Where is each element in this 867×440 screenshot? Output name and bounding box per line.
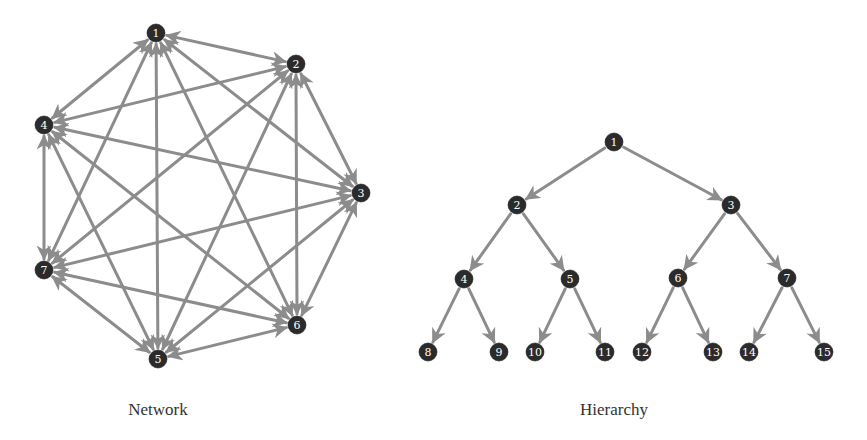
node-label: 4 bbox=[41, 119, 48, 132]
node-label: 2 bbox=[293, 58, 300, 71]
hierarchy-edge-1-2 bbox=[526, 148, 605, 199]
hierarchy-node-8: 8 bbox=[419, 343, 437, 361]
figure-canvas: 1234567 123456789101112131415 Network Hi… bbox=[0, 0, 867, 440]
hierarchy-edge-6-13 bbox=[683, 288, 709, 342]
network-edge-4-6 bbox=[53, 132, 289, 318]
node-label: 14 bbox=[742, 346, 756, 359]
node-label: 12 bbox=[635, 346, 649, 359]
network-node-1: 1 bbox=[147, 24, 165, 42]
node-label: 7 bbox=[784, 272, 791, 285]
hierarchy-edge-5-10 bbox=[540, 289, 565, 342]
node-label: 13 bbox=[706, 346, 720, 359]
network-edge-3-4 bbox=[55, 127, 350, 190]
hierarchy-edge-7-14 bbox=[754, 288, 782, 342]
network-node-5: 5 bbox=[149, 350, 167, 368]
hierarchy-node-1: 1 bbox=[605, 133, 623, 151]
diagram-svg: 1234567 123456789101112131415 bbox=[0, 0, 867, 440]
node-label: 6 bbox=[294, 319, 301, 332]
hierarchy-caption: Hierarchy bbox=[580, 400, 648, 420]
network-edge-1-5 bbox=[156, 44, 158, 348]
node-label: 6 bbox=[675, 272, 682, 285]
node-label: 9 bbox=[496, 346, 503, 359]
network-edge-3-5 bbox=[167, 200, 353, 352]
hierarchy-edge-3-7 bbox=[738, 214, 781, 270]
node-label: 1 bbox=[611, 136, 618, 149]
hierarchy-edges bbox=[433, 147, 819, 342]
node-label: 7 bbox=[41, 264, 48, 277]
network-caption: Network bbox=[128, 400, 187, 420]
network-node-7: 7 bbox=[35, 261, 53, 279]
node-label: 3 bbox=[728, 199, 735, 212]
network-edge-3-7 bbox=[55, 196, 351, 268]
network-nodes: 1234567 bbox=[35, 24, 370, 368]
node-label: 10 bbox=[528, 346, 542, 359]
hierarchy-node-7: 7 bbox=[778, 269, 796, 287]
network-edge-1-7 bbox=[49, 43, 152, 260]
node-label: 8 bbox=[425, 346, 432, 359]
node-label: 4 bbox=[461, 273, 468, 286]
hierarchy-node-11: 11 bbox=[596, 343, 614, 361]
node-label: 3 bbox=[358, 187, 365, 200]
network-edge-1-3 bbox=[165, 40, 353, 186]
node-label: 2 bbox=[514, 199, 521, 212]
node-label: 11 bbox=[598, 346, 612, 359]
hierarchy-node-14: 14 bbox=[740, 343, 758, 361]
network-edge-2-5 bbox=[163, 74, 292, 349]
node-label: 15 bbox=[817, 346, 831, 359]
node-label: 1 bbox=[153, 27, 160, 40]
network-node-2: 2 bbox=[287, 55, 305, 73]
network-node-6: 6 bbox=[288, 316, 306, 334]
hierarchy-edge-7-15 bbox=[792, 288, 819, 342]
hierarchy-node-13: 13 bbox=[704, 343, 722, 361]
hierarchy-nodes: 123456789101112131415 bbox=[419, 133, 833, 361]
hierarchy-edge-4-9 bbox=[469, 289, 494, 342]
network-edge-5-6 bbox=[169, 328, 287, 357]
network-edges bbox=[44, 35, 356, 356]
hierarchy-node-12: 12 bbox=[633, 343, 651, 361]
hierarchy-node-3: 3 bbox=[722, 196, 740, 214]
network-edge-2-4 bbox=[55, 67, 286, 123]
hierarchy-node-2: 2 bbox=[508, 196, 526, 214]
network-edge-4-5 bbox=[49, 135, 153, 349]
hierarchy-node-5: 5 bbox=[561, 270, 579, 288]
node-label: 5 bbox=[567, 273, 574, 286]
network-edge-6-7 bbox=[55, 272, 287, 322]
network-node-3: 3 bbox=[352, 184, 370, 202]
network-node-4: 4 bbox=[35, 116, 53, 134]
hierarchy-edge-2-5 bbox=[523, 214, 563, 270]
hierarchy-edge-1-3 bbox=[624, 147, 722, 200]
network-edge-2-6 bbox=[296, 75, 297, 314]
hierarchy-node-15: 15 bbox=[815, 343, 833, 361]
node-label: 5 bbox=[155, 353, 162, 366]
hierarchy-edge-5-11 bbox=[575, 289, 600, 342]
hierarchy-node-6: 6 bbox=[669, 269, 687, 287]
hierarchy-node-4: 4 bbox=[455, 270, 473, 288]
hierarchy-edge-2-4 bbox=[470, 214, 510, 270]
network-edge-1-2 bbox=[167, 35, 286, 61]
hierarchy-edge-4-8 bbox=[433, 289, 459, 342]
hierarchy-edge-3-6 bbox=[685, 214, 725, 269]
hierarchy-node-10: 10 bbox=[526, 343, 544, 361]
hierarchy-edge-6-12 bbox=[647, 288, 673, 342]
hierarchy-node-9: 9 bbox=[490, 343, 508, 361]
